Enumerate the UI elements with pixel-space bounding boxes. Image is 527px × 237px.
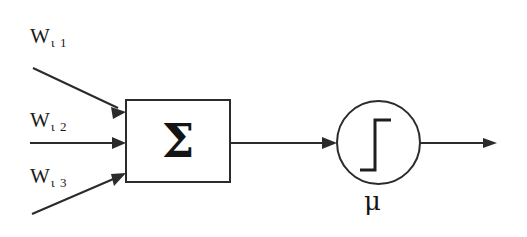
weight-label-1: Wι 1 <box>30 26 68 49</box>
weight-label-2-subscript: ι 2 <box>50 119 68 134</box>
diagram-canvas <box>0 0 527 237</box>
output-wire <box>420 138 497 148</box>
weight-label-1-base: W <box>30 24 50 48</box>
output-arrowhead <box>483 138 497 148</box>
sum-to-activation-wire <box>230 137 337 149</box>
weight-label-2: Wι 2 <box>30 110 68 133</box>
weight-label-2-base: W <box>30 108 50 132</box>
activation-circle <box>337 101 420 184</box>
input-arrowhead-1 <box>111 107 126 119</box>
weight-label-3-base: W <box>30 164 50 188</box>
summation-symbol: Σ <box>126 100 230 182</box>
threshold-label: μ <box>364 188 381 214</box>
input-arrowhead-3 <box>111 173 126 186</box>
input-wire-2 <box>30 137 126 149</box>
neuron-diagram: Wι 1 Wι 2 Wι 3 Σ μ <box>0 0 527 237</box>
input-line-1 <box>33 68 118 108</box>
weight-label-3-subscript: ι 3 <box>50 175 68 190</box>
input-arrowhead-2 <box>112 137 126 149</box>
sum-to-activation-arrowhead <box>322 137 337 149</box>
weight-label-3: Wι 3 <box>30 166 68 189</box>
weight-label-1-subscript: ι 1 <box>50 35 68 50</box>
